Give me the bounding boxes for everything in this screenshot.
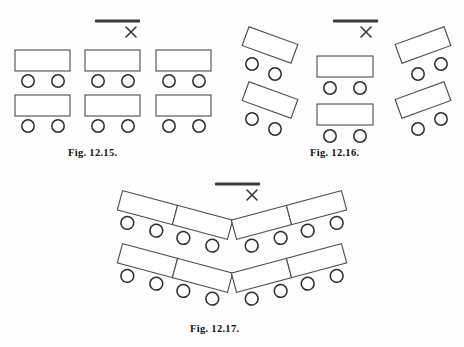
chair-shape (52, 75, 64, 87)
chair-shape (412, 123, 424, 135)
chair-shape (193, 75, 205, 87)
figure-12-16 (242, 20, 451, 143)
figure-page: Fig. 12.15. Fig. 12.16. Fig. 12.17. (0, 0, 464, 347)
whiteboard-bar-1217 (215, 183, 260, 186)
chair-shape (148, 223, 164, 239)
chair-shape (176, 283, 192, 299)
chair-shape (122, 75, 134, 87)
chair-shape (329, 268, 345, 284)
table-shape (156, 50, 211, 71)
figures-svg (0, 0, 464, 347)
chair-shape (244, 291, 260, 307)
table-shape (15, 95, 70, 116)
whiteboard-bar-1216 (333, 20, 378, 23)
table-shape (15, 50, 70, 71)
figure-12-15 (15, 20, 211, 133)
chair-shape (119, 268, 135, 284)
table-shape (156, 95, 211, 116)
chair-shape (122, 120, 134, 132)
chair-shape (52, 120, 64, 132)
table-shape (317, 104, 373, 125)
chair-shape (273, 283, 289, 299)
chair-shape (300, 223, 316, 239)
chair-shape (119, 215, 135, 231)
chair-shape (435, 58, 447, 70)
x-mark-1216 (361, 27, 371, 37)
table-shape (85, 95, 140, 116)
chair-shape (329, 215, 345, 231)
chair-shape (193, 120, 205, 132)
chair-shape (204, 291, 220, 307)
chair-shape (163, 75, 175, 87)
chair-shape (246, 113, 258, 125)
chair-shape (269, 68, 281, 80)
chair-shape (324, 130, 336, 142)
table-shape (317, 56, 373, 77)
chair-shape (269, 123, 281, 135)
chair-shape (354, 130, 366, 142)
v-arm-back-right (231, 244, 351, 309)
chair-shape (324, 82, 336, 94)
x-mark-1215 (126, 27, 136, 37)
chair-shape (163, 120, 175, 132)
chair-shape (92, 120, 104, 132)
chair-shape (246, 58, 258, 70)
table-shape (85, 50, 140, 71)
chair-shape (273, 230, 289, 246)
figure-12-17 (113, 183, 351, 309)
chair-shape (412, 68, 424, 80)
figure-caption-12-16: Fig. 12.16. (310, 147, 359, 158)
x-mark-1217 (247, 190, 257, 200)
figure-caption-12-17: Fig. 12.17. (190, 323, 239, 334)
chair-shape (300, 276, 316, 292)
chair-shape (92, 75, 104, 87)
chair-shape (148, 276, 164, 292)
chair-shape (176, 230, 192, 246)
whiteboard-bar-1215 (95, 20, 140, 23)
chair-shape (204, 238, 220, 254)
chair-shape (22, 75, 34, 87)
chair-shape (244, 238, 260, 254)
chair-shape (22, 120, 34, 132)
chair-shape (354, 82, 366, 94)
figure-caption-12-15: Fig. 12.15. (68, 147, 117, 158)
chair-shape (435, 113, 447, 125)
v-arm-back-left (113, 244, 233, 309)
